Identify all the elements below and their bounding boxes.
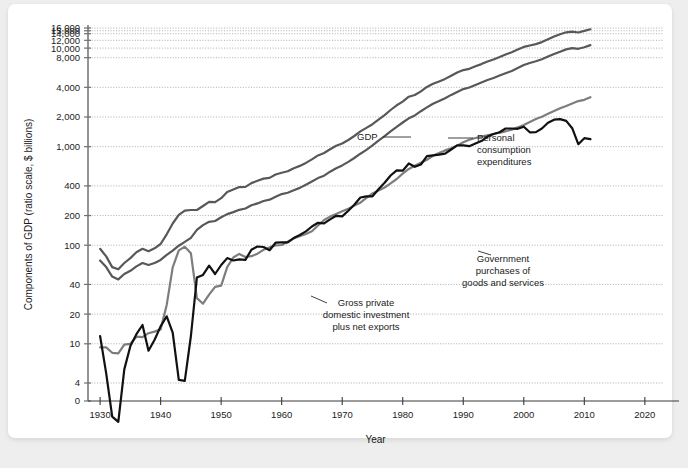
annotation-label-government: Governmentpurchases ofgoods and services bbox=[462, 253, 544, 288]
annotation-label-gdp: GDP bbox=[357, 131, 378, 142]
y-axis-tick-label: 100 bbox=[64, 240, 80, 251]
x-axis-tick-label: 1960 bbox=[271, 409, 292, 420]
x-axis-tick-label: 2000 bbox=[513, 409, 534, 420]
x-axis-tick-label: 1990 bbox=[453, 409, 474, 420]
y-axis-tick-label: 8,000 bbox=[56, 52, 80, 63]
gdp-components-chart: 041020401002004001,0002,0004,0008,00010,… bbox=[0, 0, 688, 468]
annotation-leader-investment bbox=[311, 296, 327, 303]
annotation-label-investment: Gross privatedomestic investmentplus net… bbox=[323, 297, 410, 332]
y-axis-tick-label: 1,000 bbox=[56, 141, 80, 152]
x-axis-title: Year bbox=[365, 434, 386, 445]
x-axis-tick-label: 1970 bbox=[332, 409, 353, 420]
y-axis-tick-label: 2,000 bbox=[56, 111, 80, 122]
y-axis-tick-label: 200 bbox=[64, 210, 80, 221]
x-axis-tick-label: 1950 bbox=[211, 409, 232, 420]
y-axis-tick-label: 4 bbox=[75, 377, 80, 388]
y-axis-tick-label: 40 bbox=[69, 279, 80, 290]
annotation-label-pce: Personalconsumptionexpenditures bbox=[477, 132, 532, 167]
y-axis-tick-label: 20 bbox=[69, 309, 80, 320]
x-axis-tick-label: 1980 bbox=[392, 409, 413, 420]
y-axis-tick-label: 10 bbox=[69, 338, 80, 349]
x-axis-tick-label: 1930 bbox=[90, 409, 111, 420]
y-axis-tick-label: 0 bbox=[75, 395, 80, 406]
y-axis-tick-label: 16,000 bbox=[51, 22, 80, 33]
x-axis-tick-label: 2020 bbox=[634, 409, 655, 420]
x-axis-tick-label: 1940 bbox=[150, 409, 171, 420]
y-axis-title: Components of GDP (ratio scale, $ billio… bbox=[23, 119, 34, 311]
y-axis-tick-label: 400 bbox=[64, 180, 80, 191]
x-axis-tick-label: 2010 bbox=[574, 409, 595, 420]
y-axis-tick-label: 4,000 bbox=[56, 82, 80, 93]
